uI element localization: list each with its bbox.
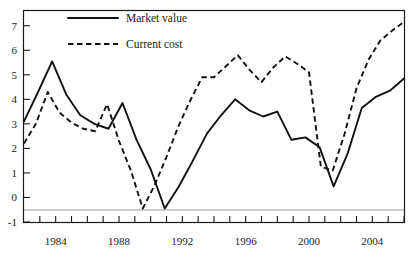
x-tick-label: 2000 xyxy=(298,235,321,247)
y-tick-label: 0 xyxy=(12,191,18,203)
x-tick-label: 1996 xyxy=(235,235,258,247)
chart-canvas: -101234567 198419881992199620002004 Mark… xyxy=(0,0,417,278)
y-tick-label: 6 xyxy=(12,44,18,56)
y-tick-label: 2 xyxy=(12,142,18,154)
y-tick-label: 5 xyxy=(12,69,18,81)
x-tick-label: 1984 xyxy=(45,235,68,247)
x-tick-label: 1992 xyxy=(171,235,193,247)
y-tick-label: -1 xyxy=(8,216,17,228)
line-chart: -101234567 198419881992199620002004 Mark… xyxy=(0,0,417,278)
y-tick-label: 4 xyxy=(12,93,18,105)
legend-label-current-cost: Current cost xyxy=(126,38,183,50)
y-tick-label: 1 xyxy=(12,167,18,179)
y-tick-label: 3 xyxy=(12,118,18,130)
y-tick-label: 7 xyxy=(12,20,18,32)
x-tick-label: 1988 xyxy=(108,235,131,247)
x-tick-label: 2004 xyxy=(361,235,384,247)
legend-label-market-value: Market value xyxy=(126,12,187,24)
